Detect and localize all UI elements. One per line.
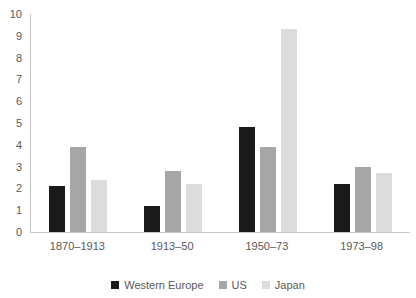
y-axis-tick-label: 10 [10,7,22,21]
legend-swatch-icon [111,281,119,289]
y-axis-tick-label: 5 [16,116,22,130]
y-axis-tick-label: 2 [16,181,22,195]
legend-label: Japan [275,279,305,291]
y-axis-tick-label: 3 [16,160,22,174]
bar-japan [376,173,392,232]
legend-item-japan: Japan [262,279,305,291]
bar-japan [186,184,202,232]
y-axis-tick-label: 1 [16,203,22,217]
x-axis-labels: 1870–19131913–501950–731973–98 [30,240,409,253]
bar-us [260,147,276,232]
x-axis-category-label: 1950–73 [220,240,315,253]
plot-area [30,14,410,233]
bar-western-europe [334,184,350,232]
bar-chart: 012345678910 1870–19131913–501950–731973… [0,0,416,298]
x-axis-category-label: 1973–98 [314,240,409,253]
y-axis-tick-label: 6 [16,94,22,108]
y-axis: 012345678910 [0,14,30,232]
legend-label: Western Europe [124,279,203,291]
bar-western-europe [239,127,255,232]
bar-us [70,147,86,232]
bar-us [165,171,181,232]
legend-item-western-europe: Western Europe [111,279,203,291]
x-axis-category-label: 1913–50 [125,240,220,253]
bar-us [355,167,371,232]
legend: Western EuropeUSJapan [0,279,416,291]
legend-label: US [232,279,247,291]
legend-item-us: US [219,279,247,291]
x-axis-category-label: 1870–1913 [30,240,125,253]
category-group-1870–1913 [31,14,126,232]
y-axis-tick-label: 9 [16,29,22,43]
bar-western-europe [144,206,160,232]
category-group-1973–98 [315,14,410,232]
bar-western-europe [49,186,65,232]
y-axis-tick-label: 8 [16,51,22,65]
category-group-1913–50 [126,14,221,232]
category-group-1950–73 [221,14,316,232]
bar-japan [281,29,297,232]
legend-swatch-icon [219,281,227,289]
bar-japan [91,180,107,232]
y-axis-tick-label: 4 [16,138,22,152]
y-axis-tick-label: 0 [16,225,22,239]
y-axis-tick-label: 7 [16,72,22,86]
legend-swatch-icon [262,281,270,289]
